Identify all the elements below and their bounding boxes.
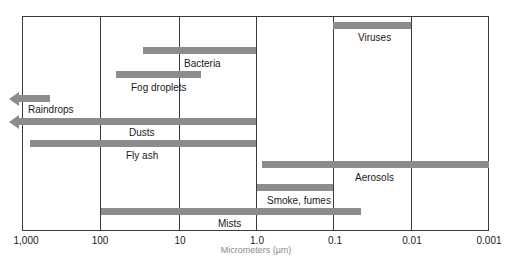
bar-aerosols [262, 161, 489, 168]
label-aerosols: Aerosols [355, 172, 394, 183]
label-raindrops: Raindrops [28, 104, 74, 115]
gridline-1 [256, 16, 257, 231]
gridline-0.01 [411, 16, 412, 231]
bar-smoke-fumes [257, 184, 333, 191]
tick-0.1: 0.1 [328, 235, 342, 246]
label-dusts: Dusts [129, 127, 155, 138]
tick-0.01: 0.01 [402, 235, 421, 246]
bar-fly-ash [30, 140, 256, 147]
bar-dusts [18, 118, 256, 125]
gridline-0.1 [333, 16, 334, 231]
label-viruses: Viruses [358, 32, 391, 43]
label-fog-droplets: Fog droplets [131, 82, 187, 93]
x-axis-label: Micrometers (µm) [221, 245, 292, 255]
label-fly-ash: Fly ash [126, 150, 158, 161]
bar-fog-droplets [116, 71, 201, 78]
bar-mists [101, 208, 361, 215]
particle-size-chart: Viruses Bacteria Fog droplets Raindrops … [0, 0, 511, 261]
tick-10: 10 [174, 235, 185, 246]
tick-0.001: 0.001 [476, 235, 501, 246]
tick-100: 100 [92, 235, 109, 246]
bar-viruses [333, 22, 411, 29]
label-smoke-fumes: Smoke, fumes [267, 195, 331, 206]
bar-raindrops [18, 95, 50, 102]
bar-bacteria [143, 47, 256, 54]
label-mists: Mists [218, 218, 241, 229]
tick-1000: 1,000 [13, 235, 38, 246]
label-bacteria: Bacteria [184, 58, 221, 69]
